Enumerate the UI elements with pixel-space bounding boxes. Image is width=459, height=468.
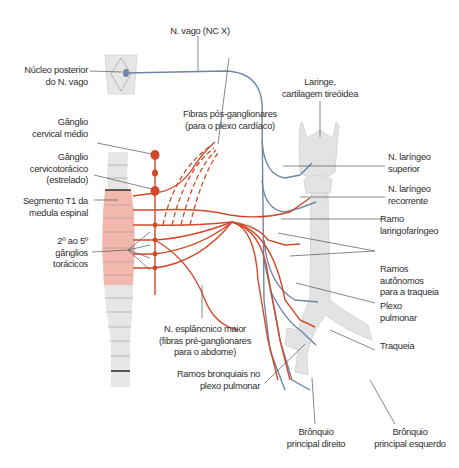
cervicothoracic-ganglion [151, 186, 160, 196]
label-autonomic-branches: Ramos autônomos para a traqueia [380, 264, 439, 299]
larynx-trachea [285, 122, 372, 375]
label-t1-segment: Segmento T1 da medula espinal [0, 196, 88, 219]
label-trachea: Traqueia [380, 341, 414, 353]
label-pulmonary-plexus: Plexo pulmonar [380, 301, 417, 324]
label-greater-splanchnic: N. esplâncnico maior (fibras pré-ganglio… [150, 324, 260, 359]
label-right-main-bronchus: Brônquio principal direito [280, 427, 352, 450]
label-postganglionic-fibers: Fibras pós-ganglionares (para o plexo ca… [175, 109, 285, 132]
label-middle-cervical-ganglion: Gânglio cervical médio [0, 117, 88, 140]
brainstem-section [105, 55, 137, 94]
label-cervicothoracic-ganglion: Gânglio cervicotorácico (estrelado) [0, 152, 88, 187]
middle-cervical-ganglion [151, 150, 160, 160]
label-laryngopharyngeal-branch: Ramo laringofaríngeo [380, 214, 438, 237]
spinal-cord [102, 152, 135, 387]
postganglionic-dashed-fibers [163, 145, 218, 225]
label-bronchial-branches: Ramos bronquiais no plexo pulmonar [150, 369, 260, 392]
label-vagus-nerve: N. vago (NC X) [165, 26, 235, 38]
label-recurrent-laryngeal: N. laríngeo recorrente [388, 184, 431, 207]
label-vagus-nucleus: Núcleo posterior do N. vago [0, 65, 88, 88]
label-left-main-bronchus: Brônquio principal esquerdo [365, 427, 455, 450]
label-superior-laryngeal: N. laríngeo superior [388, 152, 431, 175]
label-larynx: Laringe, cartilagem tireóidea [270, 77, 370, 100]
label-thoracic-ganglia: 2º ao 5º gânglios torácicos [0, 236, 88, 271]
